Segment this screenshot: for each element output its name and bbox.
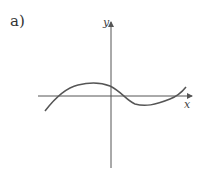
graph: y x [0, 0, 204, 170]
function-curve [45, 83, 186, 111]
y-axis-label: y [102, 16, 110, 29]
x-axis-label: x [184, 98, 191, 111]
